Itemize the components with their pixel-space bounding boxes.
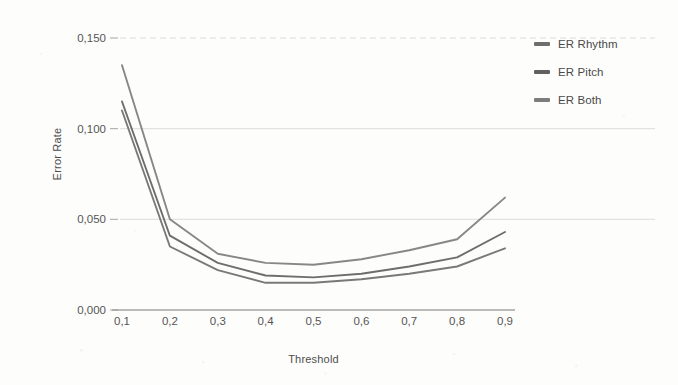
series-line xyxy=(122,111,505,283)
x-axis-tick-label: 0,1 xyxy=(102,315,142,327)
x-axis-tick-label: 0,4 xyxy=(246,315,286,327)
y-axis-tick-label: 0,000 xyxy=(48,304,106,316)
x-axis-tick-label: 0,9 xyxy=(485,315,525,327)
legend-line-swatch-icon xyxy=(534,70,550,74)
chart-figure: 0,0000,0500,1000,150 0,10,20,30,40,50,60… xyxy=(0,0,678,385)
y-axis-tick-label: 0,150 xyxy=(48,32,106,44)
legend-item[interactable]: ER Rhythm xyxy=(534,30,674,58)
legend-item-label: ER Rhythm xyxy=(558,38,618,50)
legend-item[interactable]: ER Both xyxy=(534,86,674,114)
legend-item-label: ER Pitch xyxy=(558,66,604,78)
legend-line-swatch-icon xyxy=(534,98,550,102)
y-axis-title: Error Rate xyxy=(51,109,63,199)
chart-legend: ER RhythmER PitchER Both xyxy=(534,30,674,114)
x-axis-title: Threshold xyxy=(112,353,515,365)
x-axis-tick-label: 0,7 xyxy=(389,315,429,327)
series-line xyxy=(122,65,505,265)
x-axis-tick-label: 0,6 xyxy=(341,315,381,327)
x-axis-tick-label: 0,2 xyxy=(150,315,190,327)
legend-line-swatch-icon xyxy=(534,42,550,46)
x-axis-tick-label: 0,8 xyxy=(437,315,477,327)
x-axis-tick-label: 0,5 xyxy=(294,315,334,327)
legend-item-label: ER Both xyxy=(558,94,602,106)
legend-item[interactable]: ER Pitch xyxy=(534,58,674,86)
x-axis-tick-label: 0,3 xyxy=(198,315,238,327)
y-axis-tick-label: 0,050 xyxy=(48,213,106,225)
